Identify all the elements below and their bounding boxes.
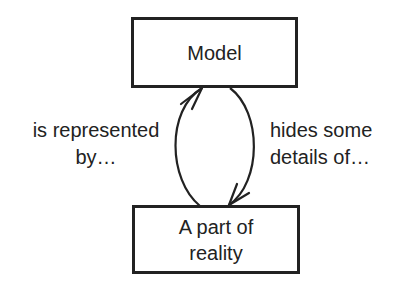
edge-label-right-line2: details of… [270,144,400,171]
node-reality-label-line2: reality [189,240,242,266]
edge-label-left-line1: is represented [18,117,174,144]
edge-label-hides-details: hides some details of… [270,117,400,171]
edge-label-left-line2: by… [18,144,174,171]
node-model-label: Model [187,40,241,66]
node-model: Model [131,17,298,88]
arrow-hides-details [229,88,254,205]
node-reality: A part of reality [132,205,300,274]
edge-label-right-line1: hides some [270,117,400,144]
edge-label-represented-by: is represented by… [18,117,174,171]
node-reality-label-line1: A part of [179,214,254,240]
arrow-represented-by [176,88,203,206]
